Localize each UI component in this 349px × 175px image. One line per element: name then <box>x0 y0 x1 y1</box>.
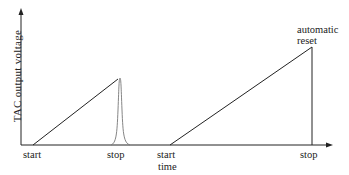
automatic-label: automatic <box>297 24 338 35</box>
stop-label-1: stop <box>107 149 125 160</box>
start-label-2: start <box>157 149 175 160</box>
stop-pulse <box>111 78 130 145</box>
x-axis-arrow-icon <box>326 143 333 148</box>
ramp-2 <box>170 47 312 145</box>
y-axis-label: TAC output voltage <box>11 21 23 131</box>
y-axis-arrow-icon <box>19 8 24 15</box>
start-label-1: start <box>23 149 41 160</box>
stop-label-2: stop <box>300 149 318 160</box>
time-label: time <box>158 161 177 172</box>
ramp-1 <box>33 79 118 145</box>
reset-label: reset <box>297 35 317 46</box>
